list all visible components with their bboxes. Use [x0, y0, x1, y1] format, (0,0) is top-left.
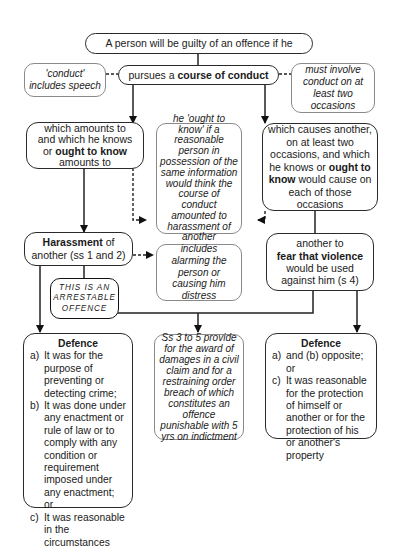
- defence-right-item: c)It was reasonable for the protection o…: [272, 375, 370, 462]
- causes-another-box: which causes another, on at least two oc…: [262, 123, 378, 211]
- arrestable-offence-box: THIS IS AN ARRESTABLE OFFENCE: [50, 278, 119, 319]
- defence-right-box: Defence a)and (b) opposite; or c)It was …: [265, 333, 377, 439]
- defence-right-item: a)and (b) opposite; or: [272, 350, 370, 375]
- defence-left-item: b)It was done under any enactment or rul…: [30, 400, 126, 512]
- fear-of-violence-box: another to fear that violence would be u…: [266, 233, 374, 291]
- two-occasions-note: must involve conduct on at least two occ…: [291, 63, 375, 113]
- defence-left-item: c)It was reasonable in the circumstances: [30, 512, 126, 549]
- offence-header-box: A person will be guilty of an offence if…: [85, 33, 313, 54]
- course-of-conduct-box: pursues a course of conduct: [118, 65, 279, 85]
- conduct-includes-speech-note: 'conduct' includes speech: [24, 63, 106, 97]
- civil-remedies-note: Ss 3 to 5 provide for the award of damag…: [154, 334, 244, 440]
- includes-alarming-note: includes alarming the person or causing …: [156, 244, 242, 301]
- defence-left-title: Defence: [30, 338, 126, 350]
- amounts-to-box: which amounts to and which he knows or o…: [26, 122, 144, 169]
- ought-to-know-definition-note: he 'ought to know' if a reasonable perso…: [156, 123, 242, 234]
- offence-header-text: A person will be guilty of an offence if…: [105, 37, 292, 50]
- defence-left-box: Defence a)It was for the purpose of prev…: [23, 333, 133, 508]
- harassment-box: Harassment of another (ss 1 and 2): [24, 232, 133, 266]
- course-of-conduct-text: pursues a course of conduct: [128, 69, 268, 82]
- defence-left-item: a)It was for the purpose of preventing o…: [30, 350, 126, 400]
- defence-right-title: Defence: [272, 338, 370, 350]
